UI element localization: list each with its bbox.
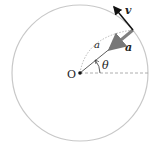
angle-label: θ <box>102 59 109 72</box>
velocity-label: v <box>125 4 132 17</box>
circular-motion-diagram: v a a θ O <box>0 0 150 150</box>
origin-point <box>78 71 82 75</box>
angle-arc <box>96 61 101 74</box>
acceleration-label: a <box>125 41 132 54</box>
origin-label: O <box>67 68 76 81</box>
radius-label: a <box>94 39 100 50</box>
